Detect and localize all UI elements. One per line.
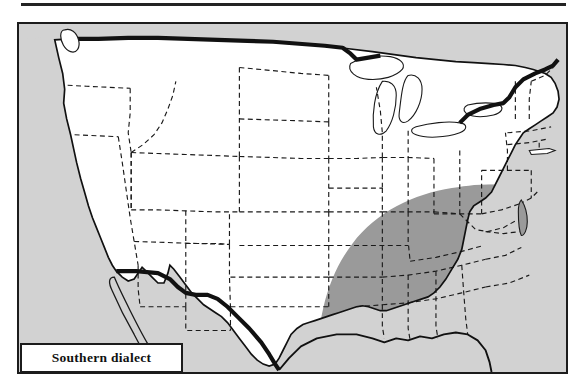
map-frame	[17, 22, 568, 374]
top-horizontal-rule	[21, 3, 566, 6]
map-legend: Southern dialect	[20, 343, 183, 373]
us-dialect-map	[19, 24, 566, 372]
figure-page: Southern dialect	[0, 0, 586, 392]
legend-label: Southern dialect	[52, 350, 152, 366]
